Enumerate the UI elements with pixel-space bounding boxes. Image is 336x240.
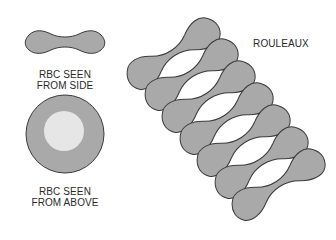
label-line: FROM SIDE bbox=[20, 80, 110, 91]
label-rbc-side: RBC SEEN FROM SIDE bbox=[20, 69, 110, 91]
label-rouleaux: ROULEAUX bbox=[246, 38, 316, 49]
rbc-side-view bbox=[25, 31, 105, 54]
label-line: FROM ABOVE bbox=[20, 197, 110, 208]
label-line: RBC SEEN bbox=[20, 186, 110, 197]
label-line: RBC SEEN bbox=[20, 69, 110, 80]
rbc-center-pallor bbox=[44, 111, 84, 151]
label-rbc-above: RBC SEEN FROM ABOVE bbox=[20, 186, 110, 208]
rbc-top-view bbox=[26, 95, 104, 173]
